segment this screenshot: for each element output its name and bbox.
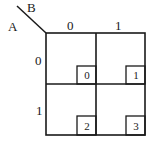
row-header-0: 0 <box>35 54 42 67</box>
column-header-1: 1 <box>115 19 122 32</box>
cell-index-0: 0 <box>78 70 96 81</box>
row-header-1: 1 <box>36 104 43 117</box>
cell-index-3: 3 <box>127 121 145 132</box>
column-variable-label: B <box>27 1 36 14</box>
column-header-0: 0 <box>67 19 74 32</box>
cell-index-1: 1 <box>127 70 145 81</box>
cell-index-2: 2 <box>78 121 96 132</box>
row-variable-label: A <box>8 20 17 33</box>
